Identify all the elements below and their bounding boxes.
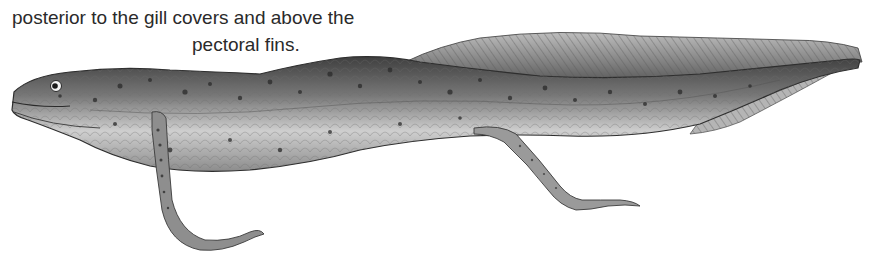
document-page: posterior to the gill covers and above t…	[0, 0, 869, 273]
fish-eye	[51, 81, 62, 92]
eel-fish-illustration	[0, 0, 869, 273]
pelvic-fin	[474, 127, 640, 210]
